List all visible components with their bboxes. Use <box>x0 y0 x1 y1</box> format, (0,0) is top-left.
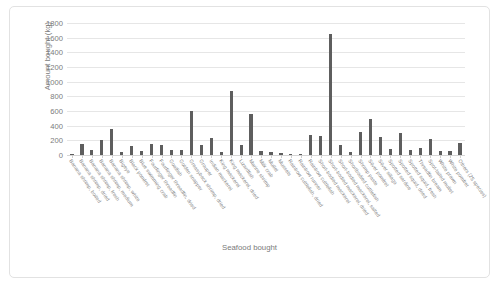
bar <box>369 119 372 155</box>
plot-area: 020040060080010001200140016001800 <box>67 23 465 155</box>
y-axis-tick-label: 1800 <box>46 19 63 28</box>
x-axis-tick-labels: Banana shrimp, boiledBanana shrimp, drie… <box>67 158 465 236</box>
bar <box>160 145 163 155</box>
x-axis-title: Seafood bought <box>10 243 489 252</box>
y-axis-tick-label: 0 <box>59 151 63 160</box>
y-axis-tick-label: 600 <box>50 107 63 116</box>
bar <box>230 91 233 155</box>
y-axis-tick-label: 400 <box>50 121 63 130</box>
bar-series <box>67 23 465 155</box>
bar <box>339 145 342 155</box>
y-axis-tick-label: 1400 <box>46 48 63 57</box>
y-axis-tick-label: 800 <box>50 92 63 101</box>
bar <box>379 137 382 155</box>
y-axis-tick-label: 200 <box>50 136 63 145</box>
bar <box>419 148 422 155</box>
bar <box>359 132 362 155</box>
bar <box>309 135 312 155</box>
bar <box>110 129 113 155</box>
bar <box>80 144 83 155</box>
bar <box>100 140 103 155</box>
y-axis-tick-label: 1000 <box>46 77 63 86</box>
bar <box>399 133 402 155</box>
bar <box>240 145 243 155</box>
bar <box>249 114 252 155</box>
y-axis-tick-label: 1200 <box>46 63 63 72</box>
chart-figure: Amount bought (kg) 020040060080010001200… <box>9 6 490 278</box>
bar <box>190 111 193 155</box>
gridline: 0 <box>67 155 465 156</box>
bar <box>429 139 432 155</box>
bar <box>210 138 213 155</box>
bar <box>329 34 332 155</box>
bar <box>130 146 133 155</box>
bar <box>150 144 153 155</box>
bar <box>200 145 203 155</box>
y-axis-tick-label: 1600 <box>46 33 63 42</box>
bar <box>319 136 322 155</box>
bar <box>458 143 461 155</box>
